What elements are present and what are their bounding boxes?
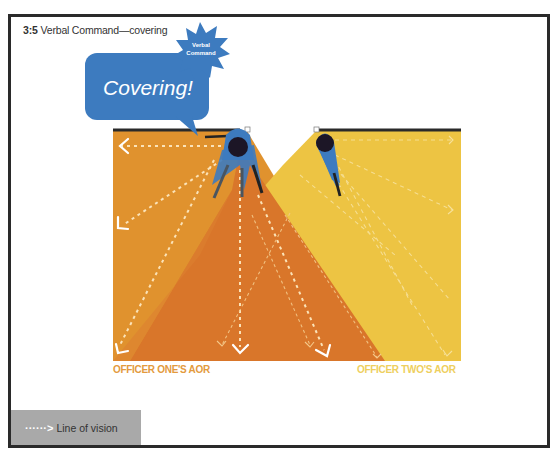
legend-label: Line of vision [56,422,117,434]
officer-one-aor-label: OFFICER ONE'S AOR [113,364,210,375]
corner-marker-right [314,127,319,132]
line-of-vision-icon: ······> [25,422,53,434]
verbal-command-starburst: Verbal Command [173,22,230,79]
legend: ······> Line of vision [11,410,141,445]
starburst-line-1: Verbal [192,42,210,48]
aor-diagram: Covering! Verbal Command [0,0,560,463]
starburst-line-2: Command [186,50,216,56]
speech-bubble-text: Covering! [103,76,193,99]
officer-two-aor-label: OFFICER TWO'S AOR [357,364,456,375]
